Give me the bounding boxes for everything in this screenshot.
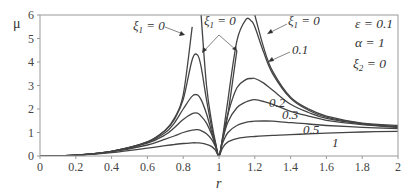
annotation-xi1-left: ξ1 = 0 bbox=[133, 18, 185, 36]
leader-line bbox=[203, 35, 236, 52]
annotation-1-label: 1 bbox=[332, 135, 339, 150]
y-tick-label: 6 bbox=[28, 8, 34, 22]
annotation-xi1-mid-label: ξ1 = 0 bbox=[204, 13, 236, 30]
y-tick-label: 3 bbox=[28, 79, 34, 93]
annotation-xi1-right: ξ1 = 0 bbox=[267, 13, 320, 34]
y-tick-label: 2 bbox=[28, 102, 34, 116]
arrow-head-icon bbox=[268, 57, 274, 62]
annotation-0.1: 0.1 bbox=[268, 42, 308, 62]
x-tick-label: 1.2 bbox=[247, 160, 262, 174]
annotation-0.1-label: 0.1 bbox=[292, 42, 308, 57]
arrow-head-icon bbox=[267, 29, 273, 34]
curve-xi1-1 bbox=[40, 131, 398, 156]
x-tick-label: 0.2 bbox=[68, 160, 83, 174]
arrow-head-icon bbox=[179, 31, 185, 36]
x-axis-title: r bbox=[216, 176, 222, 191]
curve-xi1-0.3 bbox=[40, 100, 398, 157]
curves-group bbox=[40, 15, 398, 156]
curve-xi1-0.1 bbox=[40, 18, 398, 156]
x-tick-label: 1.6 bbox=[319, 160, 334, 174]
x-tick-label: 0.6 bbox=[140, 160, 155, 174]
x-tick-label: 2 bbox=[395, 160, 401, 174]
x-tick-label: 0 bbox=[37, 160, 43, 174]
y-axis-title: μ bbox=[13, 16, 21, 31]
plot-frame bbox=[40, 15, 398, 156]
annotation-xi1-left-label: ξ1 = 0 bbox=[133, 18, 165, 35]
annotation-xi1-right-label: ξ1 = 0 bbox=[288, 13, 320, 30]
x-tick-label: 1 bbox=[216, 160, 222, 174]
param-alpha: α = 1 bbox=[355, 35, 385, 50]
annotation-0.3-label: 0.3 bbox=[282, 107, 299, 122]
curve-xi1-0.2 bbox=[40, 78, 398, 156]
curve-xi1-0.5 bbox=[40, 121, 398, 156]
annotation-xi1-mid: ξ1 = 0 bbox=[202, 13, 237, 53]
chart: 00.20.40.60.811.21.41.61.82 0123456 μ r … bbox=[0, 0, 417, 195]
y-tick-label: 0 bbox=[28, 149, 34, 163]
param-epsilon: ε = 0.1 bbox=[355, 16, 393, 31]
param-xi2: ξ2 = 0 bbox=[353, 56, 386, 73]
y-tick-label: 4 bbox=[28, 55, 34, 69]
annotation-0.5-label: 0.5 bbox=[303, 122, 320, 137]
x-tick-label: 1.8 bbox=[355, 160, 370, 174]
y-tick-label: 5 bbox=[28, 32, 34, 46]
x-tick-label: 0.8 bbox=[176, 160, 191, 174]
curve-xi1--1-0-left-branch- bbox=[40, 27, 192, 156]
x-tick-label: 0.4 bbox=[104, 160, 119, 174]
y-tick-label: 1 bbox=[28, 126, 34, 140]
y-axis-ticks: 0123456 bbox=[28, 8, 40, 163]
arrow-head-icon bbox=[202, 47, 207, 53]
x-axis-ticks: 00.20.40.60.811.21.41.61.82 bbox=[37, 156, 401, 174]
x-tick-label: 1.4 bbox=[283, 160, 298, 174]
curve-xi1--1-0-middle-branch- bbox=[201, 15, 237, 156]
